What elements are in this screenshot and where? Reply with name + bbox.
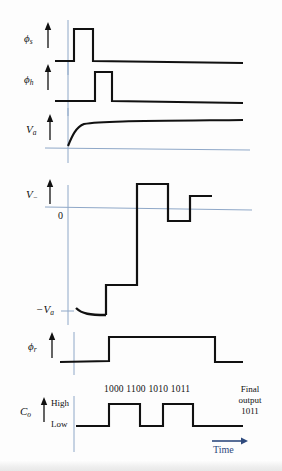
v-a-waveform bbox=[68, 120, 243, 146]
trace-v-a-group bbox=[45, 108, 250, 163]
time-arrow-head bbox=[241, 438, 248, 445]
c-o-up-arrow bbox=[41, 397, 47, 422]
phi-h-waveform bbox=[55, 72, 243, 103]
label-v-minus-zero: 0 bbox=[58, 211, 63, 222]
phi-h-up-arrow bbox=[45, 64, 51, 90]
v-minus-staircase bbox=[106, 184, 212, 315]
trace-v-minus-group bbox=[45, 184, 252, 325]
label-neg-v-a-sub: a bbox=[50, 308, 54, 317]
page-edge-shadow bbox=[0, 460, 282, 471]
label-bit-codes: 1000 1100 1010 1011 bbox=[104, 385, 190, 395]
v-a-zero-axis bbox=[45, 148, 250, 150]
axis-up-arrows-group bbox=[41, 22, 55, 422]
label-v-minus-sub: − bbox=[33, 193, 38, 202]
label-c-o: Co bbox=[20, 406, 31, 419]
phi-s-up-arrow bbox=[45, 22, 51, 48]
label-c-o-high: High bbox=[51, 399, 69, 408]
label-neg-v-a-main: −V bbox=[36, 303, 50, 315]
v-a-up-arrow bbox=[47, 114, 53, 140]
label-c-o-sub: o bbox=[27, 410, 31, 419]
trace-phi-s-group bbox=[55, 20, 243, 75]
label-final-output-line2: output bbox=[228, 396, 272, 405]
label-v-minus: V− bbox=[26, 189, 38, 202]
label-final-output-value: 1011 bbox=[228, 407, 272, 416]
label-v-a-main: V bbox=[26, 123, 33, 135]
phi-s-waveform bbox=[55, 29, 243, 63]
figure-canvas: ϕs ϕh Va V− 0 −Va ϕr Co High Low 1000 11… bbox=[0, 0, 282, 471]
label-c-o-low: Low bbox=[51, 420, 68, 429]
v-minus-zero-axis bbox=[45, 207, 252, 210]
label-final-output-line1: Final bbox=[228, 385, 272, 394]
label-v-a-sub: a bbox=[33, 128, 37, 137]
phi-r-waveform bbox=[60, 337, 243, 362]
label-neg-v-a: −Va bbox=[36, 304, 54, 317]
label-phi-h-sub: h bbox=[30, 78, 34, 87]
label-v-a: Va bbox=[26, 124, 36, 137]
label-phi-h: ϕh bbox=[24, 74, 33, 87]
label-phi-s-sub: s bbox=[30, 37, 33, 46]
label-v-minus-main: V bbox=[26, 188, 33, 200]
trace-phi-r-group bbox=[60, 332, 243, 375]
trace-phi-h-group bbox=[55, 62, 243, 116]
label-time-axis: Time bbox=[213, 444, 234, 455]
phi-r-up-arrow bbox=[49, 332, 55, 358]
v-minus-up-arrow bbox=[47, 179, 53, 204]
label-phi-s: ϕs bbox=[24, 33, 33, 46]
label-phi-r: ϕr bbox=[28, 341, 37, 354]
c-o-waveform bbox=[76, 404, 243, 426]
label-phi-r-sub: r bbox=[34, 345, 37, 354]
v-minus-exp-dip bbox=[76, 308, 106, 315]
